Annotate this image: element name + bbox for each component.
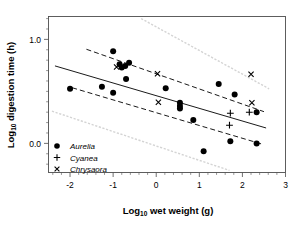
x-tick-label: -1	[109, 180, 117, 190]
x-tick-label: 2	[240, 180, 245, 190]
y-axis-tick-labels: 0.01.0	[29, 35, 41, 149]
series-points-chrysaora	[114, 64, 255, 105]
x-tick-label: 3	[283, 180, 288, 190]
x-axis-tick-labels: -2-10123	[66, 180, 288, 190]
x-tick-label: 0	[154, 180, 159, 190]
prediction-upper	[141, 19, 269, 89]
scatter-plot-figure: -2-10123 0.01.0 Log10 wet weight (g) Log…	[0, 0, 302, 225]
data-point-marker	[126, 60, 132, 66]
x-axis-title: Log10 wet weight (g)	[123, 205, 214, 217]
data-point-marker	[246, 109, 253, 116]
y-tick-label: 0.0	[29, 139, 41, 149]
confidence-upper	[86, 49, 264, 111]
series-points-cyanea	[226, 109, 253, 129]
data-point-marker	[232, 92, 238, 98]
data-point-marker	[227, 110, 234, 117]
data-point-marker	[190, 117, 196, 123]
y-axis-title: Log10 digestion time (h)	[5, 42, 17, 148]
series-points-aurelia	[67, 48, 260, 154]
data-point-marker	[67, 86, 73, 92]
data-point-marker	[248, 72, 253, 77]
data-point-marker	[226, 122, 233, 129]
legend-item-label: Aurelia	[69, 142, 95, 151]
legend-item-label: Cyanea	[70, 154, 98, 163]
data-point-marker	[254, 140, 260, 146]
data-point-marker	[254, 109, 260, 115]
x-tick-label: 1	[197, 180, 202, 190]
y-tick-label: 1.0	[29, 35, 41, 45]
data-point-marker	[216, 81, 222, 87]
legend-item-label: Chrysaora	[70, 165, 107, 174]
x-tick-label: -2	[66, 180, 74, 190]
chart-canvas: -2-10123 0.01.0 Log10 wet weight (g) Log…	[0, 0, 302, 225]
data-point-marker	[55, 167, 60, 172]
data-point-marker	[201, 148, 207, 154]
data-point-marker	[163, 85, 169, 91]
data-point-marker	[54, 154, 60, 160]
data-point-marker	[227, 138, 233, 144]
data-point-marker	[249, 100, 254, 105]
data-point-marker	[177, 106, 183, 112]
data-point-marker	[110, 48, 116, 54]
data-point-marker	[54, 143, 60, 149]
data-point-marker	[110, 90, 116, 96]
legend: AureliaCyaneaChrysaora	[54, 142, 108, 174]
data-point-marker	[99, 84, 105, 90]
data-point-marker	[156, 100, 161, 105]
data-point-marker	[123, 76, 129, 82]
